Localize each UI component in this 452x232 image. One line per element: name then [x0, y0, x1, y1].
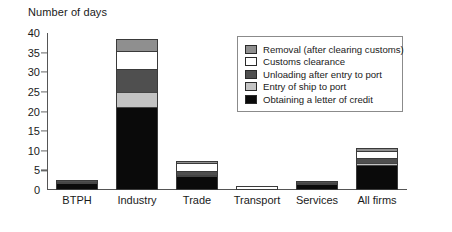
y-tick-mark: [41, 52, 47, 53]
legend-swatch-icon: [245, 70, 257, 79]
y-tick-label: 5: [14, 164, 40, 176]
legend-label: Customs clearance: [263, 56, 345, 67]
x-tick-label-industry: Industry: [107, 194, 167, 206]
legend-label: Unloading after entry to port: [263, 69, 382, 80]
bar-transport: [236, 186, 278, 190]
legend: Removal (after clearing customs)Customs …: [237, 36, 403, 112]
stacked-bar-chart: Number of days 0510152025303540 BTPHIndu…: [0, 0, 452, 232]
y-tick-label: 35: [14, 47, 40, 59]
legend-item: Obtaining a letter of credit: [245, 94, 397, 105]
legend-item: Customs clearance: [245, 56, 397, 67]
bar-segment: [116, 51, 158, 71]
y-tick-mark: [41, 131, 47, 132]
legend-item: Entry of ship to port: [245, 81, 397, 92]
bar-segment: [116, 108, 158, 190]
legend-swatch-icon: [245, 57, 257, 66]
bar-segment: [236, 186, 278, 190]
y-tick-label: 20: [14, 106, 40, 118]
bar-btph: [56, 180, 98, 190]
y-tick-label: 25: [14, 86, 40, 98]
x-tick-label-all-firms: All firms: [347, 194, 407, 206]
bar-segment: [116, 39, 158, 51]
legend-swatch-icon: [245, 95, 257, 104]
y-tick-label: 10: [14, 145, 40, 157]
bar-trade: [176, 161, 218, 190]
x-tick-label-transport: Transport: [227, 194, 287, 206]
y-tick-mark: [41, 72, 47, 73]
legend-label: Entry of ship to port: [263, 81, 346, 92]
x-tick-label-btph: BTPH: [47, 194, 107, 206]
legend-item: Unloading after entry to port: [245, 69, 397, 80]
y-tick-label: 40: [14, 27, 40, 39]
bar-industry: [116, 39, 158, 190]
bar-services: [296, 181, 338, 190]
legend-swatch-icon: [245, 82, 257, 91]
bar-segment: [176, 163, 218, 172]
bar-segment: [56, 184, 98, 190]
bar-segment: [296, 185, 338, 190]
bar-segment: [176, 177, 218, 190]
y-tick-mark: [41, 111, 47, 112]
y-tick-label: 15: [14, 125, 40, 137]
y-tick-label: 30: [14, 66, 40, 78]
x-tick-label-trade: Trade: [167, 194, 227, 206]
bar-segment: [356, 151, 398, 160]
y-tick-mark: [41, 91, 47, 92]
legend-label: Obtaining a letter of credit: [263, 94, 373, 105]
legend-item: Removal (after clearing customs): [245, 44, 397, 55]
legend-label: Removal (after clearing customs): [263, 44, 404, 55]
x-tick-label-services: Services: [287, 194, 347, 206]
y-axis-title: Number of days: [28, 6, 107, 18]
bar-segment: [116, 70, 158, 92]
y-tick-label: 0: [14, 184, 40, 196]
bar-all-firms: [356, 148, 398, 190]
bar-segment: [116, 92, 158, 108]
y-tick-mark: [41, 150, 47, 151]
y-tick-mark: [41, 170, 47, 171]
legend-swatch-icon: [245, 45, 257, 54]
bar-segment: [356, 166, 398, 190]
